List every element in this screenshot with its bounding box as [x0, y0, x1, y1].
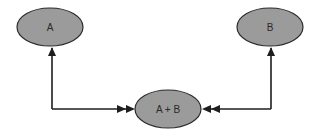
node-a-plus-b[interactable]: A + B	[135, 90, 201, 128]
node-a-plus-b-label: A + B	[156, 104, 181, 115]
edge-a-to-ab	[48, 47, 135, 113]
diagram-svg: A B A + B	[0, 0, 316, 137]
node-b-label: B	[267, 22, 274, 33]
double-arrowhead-right-icon	[126, 105, 135, 113]
node-b[interactable]: B	[237, 8, 303, 46]
arrowhead-up-icon	[267, 47, 275, 56]
edge-b-to-ab	[202, 47, 275, 113]
double-arrowhead-left-icon	[211, 105, 220, 113]
diagram-canvas: A B A + B	[0, 0, 316, 137]
node-a[interactable]: A	[17, 8, 83, 46]
arrowhead-up-icon	[48, 47, 56, 56]
node-a-label: A	[47, 22, 54, 33]
double-arrowhead-left-icon	[202, 105, 211, 113]
double-arrowhead-right-icon	[117, 105, 126, 113]
